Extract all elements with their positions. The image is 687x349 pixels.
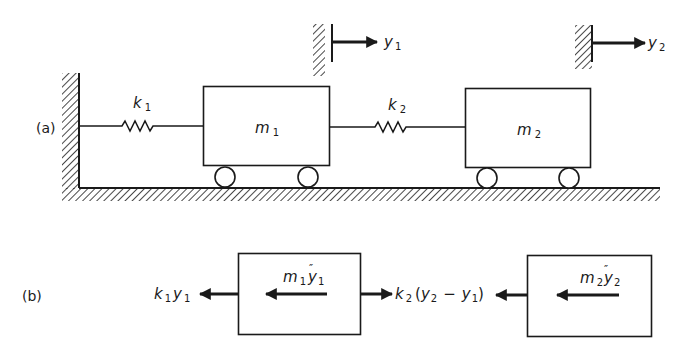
- ground: [62, 188, 660, 201]
- part-a-tag: (a): [36, 120, 56, 136]
- spring-k2-label: k2: [388, 96, 406, 115]
- displacement-y2-label: y2: [647, 34, 665, 53]
- force-k1y1-label: k1y1: [154, 285, 190, 304]
- double-dot: ″: [604, 263, 608, 276]
- displacement-y1-label: y1: [383, 33, 401, 52]
- two-mass-spring-diagram: (a) k1 m1 k2 m2 y1: [0, 0, 687, 349]
- spring-k1: [79, 121, 203, 131]
- force-k2-label: k2(y2−y1): [395, 285, 484, 304]
- double-dot: ″: [309, 262, 313, 275]
- part-b-tag: (b): [22, 288, 42, 304]
- displacement-y1-reference: [313, 24, 377, 76]
- spring-k2: [329, 122, 465, 132]
- wheel: [215, 167, 235, 187]
- wheel: [559, 168, 579, 188]
- fixed-wall: [62, 73, 79, 189]
- wheel: [477, 168, 497, 188]
- spring-k1-label: k1: [133, 94, 151, 113]
- displacement-y2-reference: [575, 25, 645, 69]
- wheel: [298, 167, 318, 187]
